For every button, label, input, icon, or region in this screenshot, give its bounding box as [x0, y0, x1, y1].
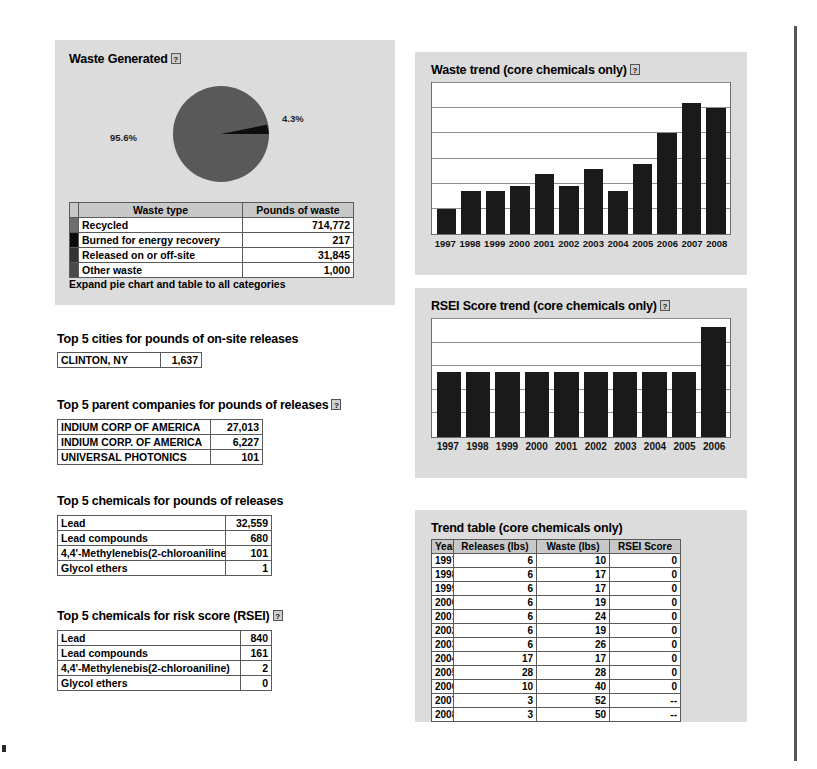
help-icon[interactable]: ?: [331, 399, 341, 410]
chemical-value: 2: [241, 661, 272, 676]
table-row: 2007352--: [432, 694, 681, 708]
pounds-cell: 217: [243, 233, 354, 248]
bar: [559, 186, 579, 234]
x-axis-tick-label: 1999: [482, 238, 507, 249]
pounds-cell: 31,845: [243, 248, 354, 263]
x-axis-tick-label: 2004: [640, 441, 670, 452]
table-row: 4,4'-Methylenebis(2-chloroaniline)101: [58, 546, 272, 561]
table-row: 2008350--: [432, 708, 681, 722]
trend-year-cell: 1999: [432, 582, 454, 596]
pounds-cell: 1,000: [243, 263, 354, 278]
trend-releases-cell: 6: [454, 596, 537, 610]
trend-releases-header: Releases (lbs): [454, 540, 537, 554]
trend-year-cell: 2006: [432, 680, 454, 694]
rsei-trend-panel: RSEI Score trend (core chemicals only)? …: [415, 288, 747, 478]
chemical-name: Lead: [58, 516, 226, 531]
trend-rsei-cell: 0: [610, 596, 681, 610]
pie-svg: [172, 85, 270, 183]
x-axis-tick-label: 2005: [670, 441, 700, 452]
trend-rsei-cell: 0: [610, 610, 681, 624]
x-axis-tick-label: 2006: [699, 441, 729, 452]
table-row: INDIUM CORP. OF AMERICA6,227: [58, 435, 263, 450]
chemical-name: Lead compounds: [58, 646, 241, 661]
company-name: INDIUM CORP. OF AMERICA: [58, 435, 211, 450]
x-axis-tick-label: 2006: [655, 238, 680, 249]
trend-rsei-cell: 0: [610, 554, 681, 568]
trend-waste-cell: 24: [537, 610, 610, 624]
rsei-trend-plot: [431, 318, 731, 438]
top-companies-table: INDIUM CORP OF AMERICA27,013INDIUM CORP.…: [57, 419, 263, 465]
table-row: Lead840: [58, 631, 272, 646]
top-chemicals-risk-table: Lead840Lead compounds1614,4'-Methylenebi…: [57, 630, 272, 691]
table-header-row: Year Releases (lbs) Waste (lbs) RSEI Sco…: [432, 540, 681, 554]
table-row: 19986170: [432, 568, 681, 582]
color-swatch: [70, 248, 78, 262]
table-row: Glycol ethers1: [58, 561, 272, 576]
waste-generated-title-text: Waste Generated: [69, 52, 168, 66]
table-row: 200528280: [432, 666, 681, 680]
help-icon[interactable]: ?: [171, 53, 181, 64]
waste-trend-title-text: Waste trend (core chemicals only): [431, 63, 627, 77]
help-icon[interactable]: ?: [660, 300, 670, 311]
trend-rsei-cell: 0: [610, 666, 681, 680]
bar: [495, 372, 519, 437]
chemical-value: 840: [241, 631, 272, 646]
chemical-name: Lead compounds: [58, 531, 226, 546]
swatch-header: [70, 203, 79, 218]
chemical-name: Glycol ethers: [58, 561, 226, 576]
legend-swatch: [70, 218, 79, 233]
waste-trend-plot: [431, 82, 731, 235]
bar: [633, 164, 653, 234]
x-axis-tick-label: 2005: [630, 238, 655, 249]
bar: [642, 372, 666, 437]
bar: [584, 169, 604, 234]
x-axis-tick-label: 2001: [551, 441, 581, 452]
chemical-name: Lead: [58, 631, 241, 646]
expand-pie-chart-link[interactable]: Expand pie chart and table to all catego…: [69, 278, 285, 290]
trend-waste-cell: 17: [537, 582, 610, 596]
top-chemicals-risk-heading: Top 5 chemicals for risk score (RSEI)?: [57, 609, 283, 623]
table-row: 4,4'-Methylenebis(2-chloroaniline)2: [58, 661, 272, 676]
table-row: Other waste1,000: [70, 263, 354, 278]
legend-swatch: [70, 248, 79, 263]
trend-releases-cell: 3: [454, 708, 537, 722]
trend-waste-header: Waste (lbs): [537, 540, 610, 554]
trend-year-cell: 2003: [432, 638, 454, 652]
table-row: Lead32,559: [58, 516, 272, 531]
table-header-row: Waste type Pounds of waste: [70, 203, 354, 218]
rsei-trend-bars: [432, 319, 730, 437]
city-name: CLINTON, NY: [58, 353, 161, 368]
chemical-name: 4,4'-Methylenebis(2-chloroaniline): [58, 661, 241, 676]
x-axis-tick-label: 1999: [492, 441, 522, 452]
trend-year-cell: 2002: [432, 624, 454, 638]
trend-rsei-cell: --: [610, 708, 681, 722]
trend-releases-cell: 10: [454, 680, 537, 694]
table-row: 19976100: [432, 554, 681, 568]
trend-releases-cell: 6: [454, 638, 537, 652]
waste-type-cell: Other waste: [79, 263, 243, 278]
company-name: UNIVERSAL PHOTONICS: [58, 450, 211, 465]
table-row: CLINTON, NY1,637: [58, 353, 202, 368]
legend-swatch: [70, 263, 79, 278]
trend-rsei-cell: 0: [610, 568, 681, 582]
pounds-cell: 714,772: [243, 218, 354, 233]
trend-waste-cell: 40: [537, 680, 610, 694]
waste-trend-x-axis-labels: 1997199819992000200120022003200420052006…: [431, 238, 731, 249]
help-icon[interactable]: ?: [630, 64, 640, 75]
trend-year-cell: 1997: [432, 554, 454, 568]
waste-trend-panel: Waste trend (core chemicals only)? 19971…: [415, 52, 747, 275]
top-companies-heading: Top 5 parent companies for pounds of rel…: [57, 398, 341, 412]
x-axis-tick-label: 2000: [507, 238, 532, 249]
help-icon[interactable]: ?: [273, 610, 283, 621]
chemical-value: 101: [226, 546, 272, 561]
color-swatch: [70, 233, 78, 247]
legend-swatch: [70, 233, 79, 248]
x-axis-tick-label: 1998: [463, 441, 493, 452]
trend-releases-cell: 6: [454, 568, 537, 582]
trend-year-cell: 2001: [432, 610, 454, 624]
trend-waste-cell: 19: [537, 624, 610, 638]
trend-releases-cell: 6: [454, 582, 537, 596]
trend-table-panel: Trend table (core chemicals only) Year R…: [415, 510, 747, 722]
color-swatch: [70, 263, 78, 277]
top-cities-table: CLINTON, NY1,637: [57, 352, 202, 368]
